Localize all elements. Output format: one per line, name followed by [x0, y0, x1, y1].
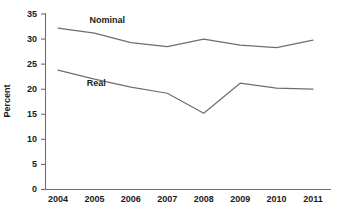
- y-tick-label: 30: [27, 34, 37, 44]
- y-tick-label: 5: [32, 159, 37, 169]
- y-tick-label: 10: [27, 134, 37, 144]
- series-label-real: Real: [87, 78, 106, 88]
- y-axis-title: Percent: [2, 84, 12, 117]
- x-tick-label: 2007: [157, 194, 177, 204]
- x-tick-label: 2004: [48, 194, 68, 204]
- y-tick-label: 35: [27, 9, 37, 19]
- y-tick-label: 0: [32, 184, 37, 194]
- x-tick-label: 2008: [194, 194, 214, 204]
- x-tick-label: 2009: [230, 194, 250, 204]
- x-tick-label: 2006: [121, 194, 141, 204]
- y-tick-label: 20: [27, 84, 37, 94]
- y-tick-label: 25: [27, 59, 37, 69]
- y-tick-label: 15: [27, 109, 37, 119]
- x-tick-label: 2010: [267, 194, 287, 204]
- x-tick-label: 2005: [84, 194, 104, 204]
- series-label-nominal: Nominal: [89, 15, 125, 25]
- line-chart: 05101520253035 Percent 20042005200620072…: [0, 0, 342, 217]
- chart-background: [0, 0, 342, 217]
- chart-canvas: 05101520253035 Percent 20042005200620072…: [0, 0, 342, 217]
- x-tick-label: 2011: [303, 194, 323, 204]
